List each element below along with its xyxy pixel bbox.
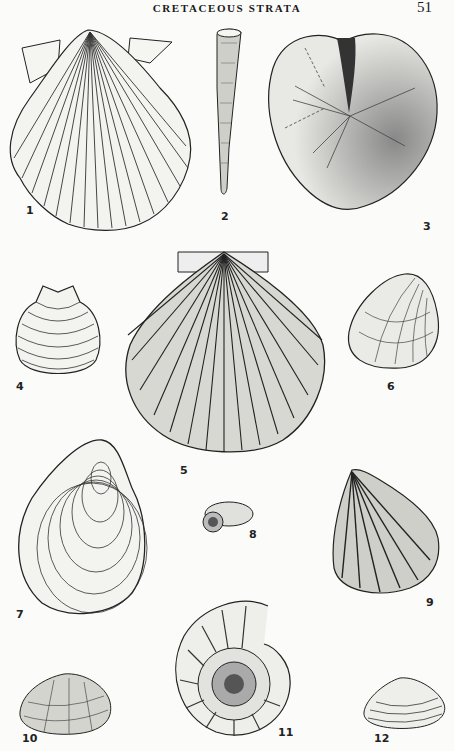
figure-label: 10	[22, 732, 37, 745]
page-number: 51	[417, 0, 432, 16]
figure-7-oyster: 7	[12, 438, 152, 628]
figure-6-clam: 6	[345, 272, 445, 397]
figure-label: 11	[278, 726, 293, 739]
figure-9-ribbed-bivalve: 9	[330, 468, 445, 613]
running-head: CRETACEOUS STRATA	[0, 2, 454, 14]
figure-label: 4	[16, 380, 24, 393]
figure-label: 12	[374, 732, 389, 745]
figure-label: 2	[221, 210, 229, 223]
figure-label: 8	[249, 528, 257, 541]
figure-2-tube: 2	[215, 28, 255, 208]
figure-label: 5	[180, 464, 188, 477]
figure-label: 1	[26, 204, 34, 217]
figure-4-bivalve: 4	[8, 282, 108, 392]
figure-label: 7	[16, 608, 24, 621]
figure-11-ammonite: 11	[172, 596, 292, 746]
figure-label: 3	[423, 220, 431, 233]
figure-label: 6	[387, 380, 395, 393]
figure-8-gastropod: 8	[195, 498, 275, 548]
figure-label: 9	[426, 596, 434, 609]
figure-10-clam: 10	[14, 672, 114, 747]
figure-3-heart-urchin: 3	[265, 28, 445, 223]
figure-1-scallop: 1	[0, 28, 200, 238]
figure-12-clam: 12	[362, 676, 452, 748]
